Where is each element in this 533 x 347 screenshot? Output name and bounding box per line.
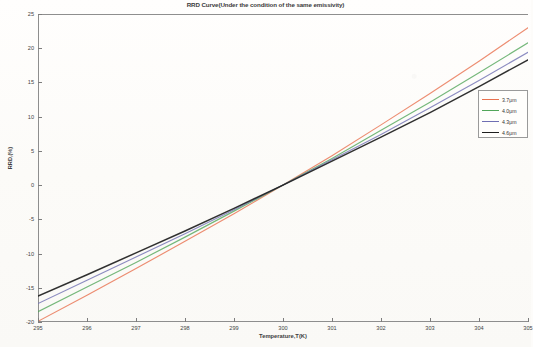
- x-tick-label: 305: [523, 325, 532, 331]
- y-tick-label: -5: [0, 216, 37, 222]
- x-tick-mark: [185, 318, 186, 322]
- legend-label: 4.3μm: [502, 119, 517, 125]
- x-tick-label: 297: [131, 325, 140, 331]
- y-tick-mark: [38, 48, 42, 49]
- x-tick-mark: [430, 318, 431, 322]
- legend-label: 3.7μm: [502, 97, 517, 103]
- x-tick-label: 296: [82, 325, 91, 331]
- y-axis-label: RRD,(%): [7, 128, 13, 188]
- plot-area: [38, 14, 528, 322]
- y-tick-mark: [38, 185, 42, 186]
- legend-item: 3.7μm: [482, 94, 525, 105]
- x-tick-label: 302: [376, 325, 385, 331]
- series-line: [38, 28, 528, 322]
- x-tick-label: 300: [278, 325, 287, 331]
- legend-color-swatch: [482, 121, 499, 122]
- y-tick-mark: [38, 14, 42, 15]
- x-tick-label: 299: [229, 325, 238, 331]
- series-line: [38, 60, 528, 296]
- y-tick-mark: [38, 117, 42, 118]
- y-tick-label: -10: [0, 251, 37, 257]
- x-tick-mark: [528, 318, 529, 322]
- y-tick-label: 10: [0, 114, 37, 120]
- y-tick-mark: [38, 322, 42, 323]
- legend-color-swatch: [482, 132, 499, 133]
- x-tick-mark: [234, 318, 235, 322]
- legend-label: 4.6μm: [502, 130, 517, 136]
- x-tick-mark: [87, 318, 88, 322]
- legend-item: 4.3μm: [482, 116, 525, 127]
- x-tick-mark: [38, 318, 39, 322]
- y-tick-label: 15: [0, 79, 37, 85]
- series-line: [38, 43, 528, 312]
- x-tick-label: 303: [425, 325, 434, 331]
- legend-color-swatch: [482, 110, 499, 111]
- y-tick-mark: [38, 254, 42, 255]
- legend-item: 4.0μm: [482, 105, 525, 116]
- chart-title: RRD Curve(Under the condition of the sam…: [0, 1, 531, 8]
- series-lines: [38, 14, 528, 322]
- legend-item: 4.6μm: [482, 127, 525, 138]
- y-tick-label: 0: [0, 182, 37, 188]
- x-tick-mark: [136, 318, 137, 322]
- x-tick-mark: [283, 318, 284, 322]
- chart-legend: 3.7μm4.0μm4.3μm4.6μm: [478, 90, 528, 138]
- legend-label: 4.0μm: [502, 108, 517, 114]
- legend-color-swatch: [482, 99, 499, 100]
- x-axis-label: Temperature,T(K): [38, 333, 528, 339]
- y-tick-label: -15: [0, 285, 37, 291]
- series-line: [38, 52, 528, 303]
- x-tick-label: 304: [474, 325, 483, 331]
- x-tick-mark: [479, 318, 480, 322]
- x-tick-label: 301: [327, 325, 336, 331]
- y-tick-label: -20: [0, 319, 37, 325]
- y-tick-mark: [38, 219, 42, 220]
- x-tick-label: 298: [180, 325, 189, 331]
- y-tick-mark: [38, 288, 42, 289]
- y-tick-mark: [38, 151, 42, 152]
- x-tick-mark: [381, 318, 382, 322]
- y-tick-mark: [38, 82, 42, 83]
- x-tick-label: 295: [33, 325, 42, 331]
- x-tick-mark: [332, 318, 333, 322]
- y-tick-label: 20: [0, 45, 37, 51]
- y-tick-label: 5: [0, 148, 37, 154]
- y-tick-label: 25: [0, 11, 37, 17]
